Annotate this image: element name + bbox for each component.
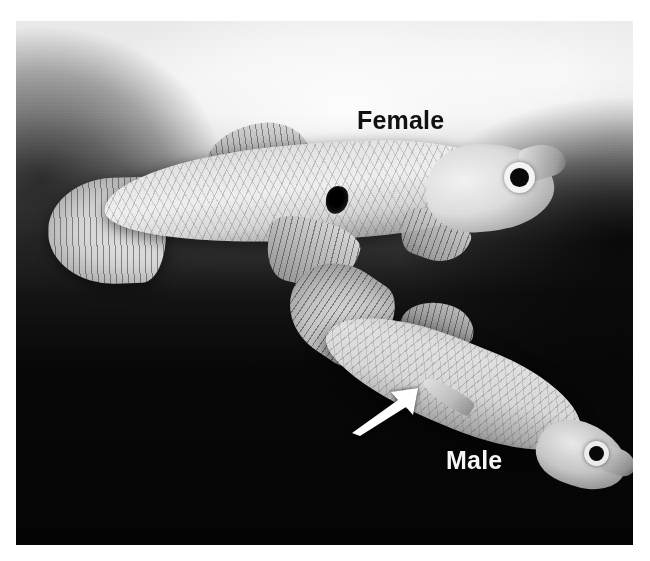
label-male: Male <box>446 448 502 473</box>
specimen-photograph <box>16 21 633 545</box>
female-pupil <box>510 168 529 187</box>
male-pupil <box>589 446 604 461</box>
figure-root: Female Male <box>0 0 650 561</box>
female-fish <box>34 126 554 276</box>
label-female: Female <box>357 108 444 133</box>
arrow-up-right-icon <box>352 386 424 436</box>
male-fish <box>284 261 633 521</box>
